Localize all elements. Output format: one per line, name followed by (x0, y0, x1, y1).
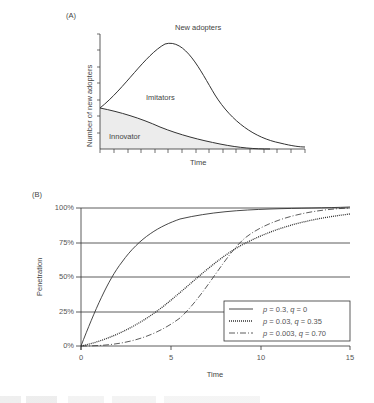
panel-a-label: (A) (66, 11, 77, 20)
panel-b-label: (B) (32, 190, 43, 199)
x-tick-15: 15 (346, 353, 354, 362)
legend: p = 0.3, q = 0 p = 0.03, q = 0.35 p = 0.… (224, 301, 350, 341)
x-tick-10: 10 (257, 353, 265, 362)
y-tick-50: 50% (59, 272, 74, 281)
figure: (A) New adopters (0, 0, 374, 403)
panel-a-x-ticks (100, 149, 305, 153)
panel-a: (A) New adopters (66, 11, 305, 167)
legend-item-1: p = 0.3, q = 0 (262, 305, 307, 314)
legend-item-3: p = 0.003, q = 0.70 (262, 329, 326, 338)
y-tick-0: 0% (63, 341, 74, 350)
panel-a-title: New adopters (175, 23, 222, 32)
panel-a-y-label: Number of new adopters (85, 65, 94, 147)
y-tick-25: 25% (59, 307, 74, 316)
panel-b-y-tick-labels: 100% 75% 50% 25% 0% (55, 203, 75, 350)
panel-a-x-label: Time (190, 158, 206, 167)
x-tick-5: 5 (169, 353, 173, 362)
panel-b-y-label: Penetration (35, 258, 44, 296)
panel-b: (B) 100% 75% 50% 25% 0% 0 5 (32, 190, 354, 379)
truncated-caption (0, 396, 260, 403)
legend-item-2: p = 0.03, q = 0.35 (262, 317, 322, 326)
y-tick-75: 75% (59, 238, 74, 247)
panel-b-x-label: Time (207, 370, 223, 379)
x-tick-0: 0 (79, 353, 83, 362)
panel-b-x-ticks (81, 346, 350, 350)
panel-a-y-ticks (97, 34, 100, 133)
imitators-annotation: Imitators (146, 93, 175, 102)
panel-b-x-tick-labels: 0 5 10 15 (79, 353, 354, 362)
y-tick-100: 100% (55, 203, 75, 212)
innovator-annotation: Innovator (109, 132, 141, 141)
